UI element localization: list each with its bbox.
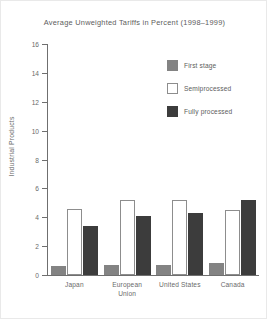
y-axis-tick-label: 2 — [3, 243, 39, 250]
bar — [225, 210, 240, 275]
chart-legend: First stageSemiprocessedFully processed — [167, 57, 232, 126]
legend-swatch-icon — [167, 83, 178, 94]
y-axis-tick-mark — [42, 44, 48, 45]
y-axis-tick-label: 14 — [3, 69, 39, 76]
chart-figure: Average Unweighted Tariffs in Percent (1… — [0, 0, 267, 319]
legend-label: Fully processed — [184, 108, 232, 115]
legend-swatch-icon — [167, 106, 178, 117]
y-axis-tick-label: 16 — [3, 41, 39, 48]
y-axis-tick-mark — [42, 131, 48, 132]
legend-item[interactable]: First stage — [167, 57, 232, 74]
bar — [188, 213, 203, 275]
legend-item[interactable]: Semiprocessed — [167, 80, 232, 97]
y-axis-tick-label: 0 — [3, 272, 39, 279]
bar — [136, 216, 151, 275]
bar-group — [48, 44, 101, 275]
y-axis-tick-mark — [42, 275, 48, 276]
legend-label: First stage — [184, 62, 216, 69]
y-axis-tick-mark — [42, 188, 48, 189]
bar — [51, 266, 66, 275]
y-axis-tick-label: 4 — [3, 214, 39, 221]
y-axis-tick-label: 10 — [3, 127, 39, 134]
x-axis-category-label: Canada — [200, 281, 265, 290]
bar — [209, 263, 224, 275]
chart-title: Average Unweighted Tariffs in Percent (1… — [1, 18, 267, 27]
y-axis-tick-mark — [42, 73, 48, 74]
legend-swatch-icon — [167, 60, 178, 71]
legend-item[interactable]: Fully processed — [167, 103, 232, 120]
bar — [83, 226, 98, 275]
y-axis-tick-mark — [42, 102, 48, 103]
y-axis-tick-mark — [42, 217, 48, 218]
y-axis-tick-mark — [42, 160, 48, 161]
bar — [104, 265, 119, 275]
y-axis-tick-mark — [42, 246, 48, 247]
bar — [156, 265, 171, 275]
y-axis-tick-labels: 1614121086420 — [1, 1, 39, 319]
y-axis-tick-label: 12 — [3, 98, 39, 105]
x-axis-category-label-line: Union — [95, 290, 160, 299]
bar — [172, 200, 187, 275]
legend-label: Semiprocessed — [184, 85, 231, 92]
x-axis-category-label-line: Canada — [200, 281, 265, 290]
y-axis-tick-label: 8 — [3, 156, 39, 163]
bar — [67, 209, 82, 275]
bar-group — [101, 44, 154, 275]
y-axis-tick-label: 6 — [3, 185, 39, 192]
bar — [120, 200, 135, 275]
bar — [241, 200, 256, 275]
